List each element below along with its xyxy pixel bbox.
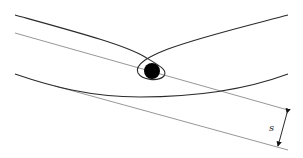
central-body	[144, 63, 160, 79]
impact-parameter-label: s	[269, 122, 274, 133]
impact-parameter-arrow	[278, 113, 287, 146]
scattering-diagram: s	[0, 0, 303, 158]
lower-asymptote-line	[55, 86, 288, 150]
